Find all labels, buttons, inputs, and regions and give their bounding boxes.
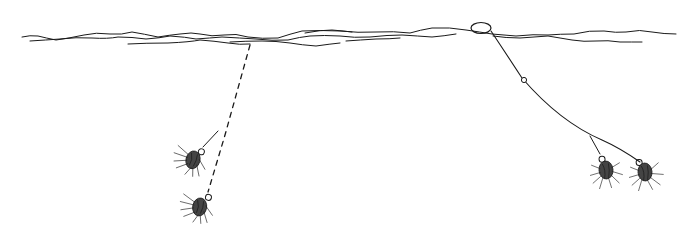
water-surface <box>22 28 676 46</box>
nymph-fly-lower <box>177 190 216 225</box>
fly-fishing-illustration <box>0 0 691 232</box>
left-rig <box>170 45 250 225</box>
leader-line <box>491 31 640 162</box>
nymph-fly-right-1 <box>589 155 624 190</box>
nymph-fly-upper <box>170 142 210 179</box>
right-rig <box>471 23 665 192</box>
dropper-tag <box>203 131 218 147</box>
dashed-leader <box>208 45 250 192</box>
tippet-ring <box>521 77 526 82</box>
nymph-fly-right-2 <box>628 157 665 191</box>
